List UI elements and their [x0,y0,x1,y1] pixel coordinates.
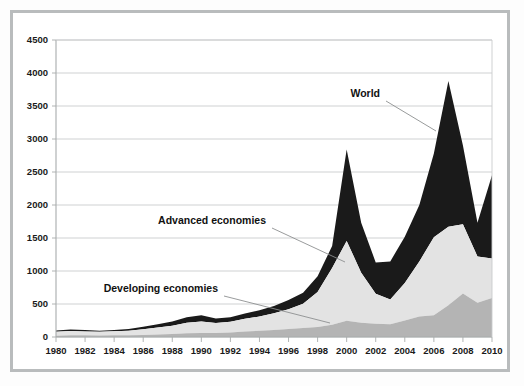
xtick-label-1984: 1984 [104,345,126,356]
ytick-label-0: 0 [43,331,48,342]
ytick-label-4000: 4000 [27,67,48,78]
ytick-label-4500: 4500 [27,34,48,45]
xtick-label-1998: 1998 [307,345,328,356]
xtick-label-2000: 2000 [336,345,357,356]
annotation-label-world: World [350,87,380,99]
xtick-label-1986: 1986 [133,345,154,356]
ytick-label-3500: 3500 [27,100,48,111]
ytick-label-1500: 1500 [27,232,48,243]
area-chart-svg: 0500100015002000250030003500400045001980… [0,0,524,386]
xtick-label-1990: 1990 [191,345,212,356]
xtick-label-1988: 1988 [162,345,183,356]
xtick-label-2002: 2002 [365,345,386,356]
xtick-label-2006: 2006 [423,345,444,356]
ytick-label-1000: 1000 [27,265,48,276]
annotation-label-developing-economies: Developing economies [104,282,219,294]
xtick-label-1994: 1994 [249,345,271,356]
xtick-label-2004: 2004 [394,345,416,356]
xtick-label-1996: 1996 [278,345,299,356]
annotation-label-advanced-economies: Advanced economies [158,214,266,226]
ytick-label-500: 500 [32,298,48,309]
chart-plot-area: 0500100015002000250030003500400045001980… [0,0,524,386]
xtick-label-1980: 1980 [45,345,66,356]
xtick-label-2010: 2010 [481,345,502,356]
xtick-label-1982: 1982 [74,345,95,356]
ytick-label-2500: 2500 [27,166,48,177]
xtick-label-1992: 1992 [220,345,241,356]
xtick-label-2008: 2008 [452,345,473,356]
ytick-label-2000: 2000 [27,199,48,210]
ytick-label-3000: 3000 [27,133,48,144]
chart-figure: 0500100015002000250030003500400045001980… [0,0,524,386]
